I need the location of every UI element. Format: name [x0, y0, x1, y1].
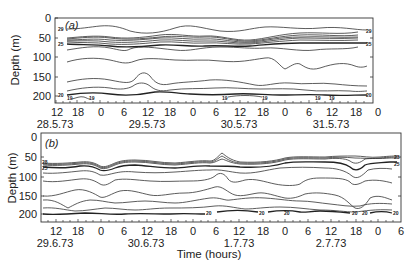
contour-label: 19 [89, 95, 95, 101]
x-tick-label: 6 [213, 106, 219, 118]
contour-label: 20 [284, 210, 290, 216]
contour-label: 20 [58, 92, 64, 98]
contour-label: 25 [42, 165, 48, 171]
contour-label: 29 [58, 26, 64, 32]
contour-label: 20 [362, 210, 368, 216]
x-tick-label: 18 [350, 225, 362, 237]
x-tick-label: 18 [72, 225, 84, 237]
contour-label: 19 [315, 95, 321, 101]
contour-label: 29 [366, 28, 372, 34]
x-tick-label: 6 [213, 225, 219, 237]
x-tick-label: 18 [164, 106, 176, 118]
x-tick-label: 0 [375, 225, 381, 237]
contour-label: 19 [222, 95, 228, 101]
contour-label: 25 [366, 41, 372, 47]
x-tick-label: 0 [375, 106, 381, 118]
x-tick-label: 6 [306, 106, 312, 118]
panel-a-x-tick-labels: 12 18 0 6 12 18 0 6 12 18 0 6 12 18 0 28… [37, 106, 381, 130]
panel-b-x-tick-labels: 12 18 0 6 12 18 0 6 12 18 0 6 12 18 0 6 … [37, 225, 404, 249]
contour-label: 19 [262, 95, 268, 101]
x-tick-label: 12 [51, 106, 63, 118]
panel-b-frame [41, 133, 401, 222]
x-tick-label: 12 [50, 225, 62, 237]
x-tick-label: 0 [282, 106, 288, 118]
contour-label: 28 [394, 154, 400, 160]
panel-b-contour-labels: 28 25 28 25 20 20 20 20 20 20 [42, 154, 400, 216]
contour-label: 20 [206, 210, 212, 216]
x-tick-label: 12 [326, 106, 338, 118]
date-label: 2.7.73 [316, 237, 347, 249]
x-tick-label: 18 [257, 225, 269, 237]
y-tick-label: 50 [25, 151, 37, 163]
panel-b-isotherms [43, 153, 397, 214]
contour-label: 20 [352, 210, 358, 216]
date-label: 29.6.73 [37, 237, 74, 249]
y-tick-label: 200 [33, 90, 51, 102]
y-tick-label: 200 [19, 208, 37, 220]
x-tick-label: 6 [398, 225, 404, 237]
x-tick-label: 0 [190, 106, 196, 118]
y-tick-label: 100 [33, 51, 51, 63]
contour-label: 19 [329, 95, 335, 101]
x-tick-label: 0 [98, 106, 104, 118]
panel-b: 0 50 100 150 200 Depth (m) 12 18 [6, 131, 404, 260]
panel-b-label: (b) [45, 137, 59, 149]
date-label: 30.6.73 [128, 237, 165, 249]
y-axis-title: Depth (m) [9, 34, 21, 85]
y-tick-label: 0 [31, 131, 37, 143]
x-tick-label: 18 [165, 225, 177, 237]
y-axis-title: Depth (m) [6, 152, 18, 203]
date-label: 29.5.73 [129, 118, 166, 130]
contour-label: 25 [394, 161, 400, 167]
contour-label: 19 [67, 95, 73, 101]
x-tick-label: 6 [121, 225, 127, 237]
x-tick-label: 0 [98, 225, 104, 237]
y-tick-label: 150 [19, 190, 37, 202]
x-tick-label: 6 [305, 225, 311, 237]
x-tick-label: 18 [72, 106, 84, 118]
x-tick-label: 12 [234, 106, 246, 118]
x-tick-label: 12 [233, 225, 245, 237]
contour-label: 25 [58, 41, 64, 47]
y-tick-label: 50 [39, 32, 51, 44]
panel-a: 0 50 100 150 200 Depth (m) 12 [9, 12, 381, 130]
x-tick-label: 18 [350, 106, 362, 118]
x-tick-label: 0 [282, 225, 288, 237]
x-tick-label: 12 [325, 225, 337, 237]
x-tick-label: 12 [141, 225, 153, 237]
x-tick-label: 0 [190, 225, 196, 237]
x-tick-label: 12 [142, 106, 154, 118]
x-tick-label: 6 [121, 106, 127, 118]
panel-a-isotherms [67, 26, 367, 99]
chart-figure: 0 50 100 150 200 Depth (m) 12 [0, 0, 414, 261]
date-label: 28.5.73 [37, 118, 74, 130]
contour-label: 20 [259, 210, 265, 216]
y-tick-label: 100 [19, 171, 37, 183]
date-label: 31.5.73 [313, 118, 350, 130]
x-tick-label: 18 [257, 106, 269, 118]
contour-label: 20 [366, 92, 372, 98]
y-tick-label: 150 [33, 71, 51, 83]
y-tick-label: 0 [45, 12, 51, 24]
x-axis-title: Time (hours) [177, 248, 242, 260]
date-label: 30.5.73 [221, 118, 258, 130]
contour-label: 20 [393, 210, 399, 216]
